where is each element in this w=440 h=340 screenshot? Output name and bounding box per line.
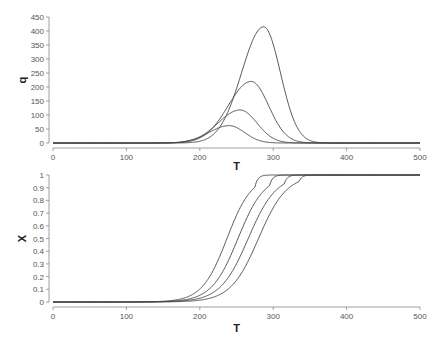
X-vs-T-plot: 00.10.20.30.40.50.60.70.80.9101002003004…	[16, 171, 427, 334]
series-line-4	[53, 175, 420, 302]
y-tick-label: 0.4	[33, 247, 45, 256]
y-tick-label: 450	[31, 13, 45, 22]
x-tick-label: 200	[193, 153, 207, 162]
y-tick-label: 50	[35, 125, 44, 134]
series-line-3	[53, 175, 420, 302]
x-axis-title: T	[233, 160, 240, 172]
y-axis-title: X	[16, 234, 28, 242]
x-tick-label: 400	[340, 312, 354, 321]
series-line-1	[53, 126, 420, 143]
y-tick-label: 150	[31, 97, 45, 106]
q-vs-T-plot: 0501001502002503003504004500100200300400…	[16, 13, 427, 172]
y-tick-label: 0.9	[33, 184, 45, 193]
y-tick-label: 350	[31, 41, 45, 50]
series-line-2	[53, 110, 420, 143]
x-tick-label: 100	[120, 312, 134, 321]
y-tick-label: 1	[40, 171, 45, 180]
y-tick-label: 0.3	[33, 260, 45, 269]
x-tick-label: 300	[267, 153, 281, 162]
chart-figure: 0501001502002503003504004500100200300400…	[0, 0, 440, 340]
x-tick-label: 0	[51, 153, 56, 162]
x-axis-title: T	[233, 322, 240, 334]
y-tick-label: 0.8	[33, 196, 45, 205]
series-line-1	[53, 175, 420, 302]
x-tick-label: 400	[340, 153, 354, 162]
y-tick-label: 0	[40, 139, 45, 148]
y-tick-label: 0.6	[33, 222, 45, 231]
x-tick-label: 0	[51, 312, 56, 321]
x-tick-label: 300	[267, 312, 281, 321]
y-axis-title: q	[16, 77, 28, 84]
x-tick-label: 200	[193, 312, 207, 321]
y-tick-label: 0.5	[33, 235, 45, 244]
series-line-4	[53, 27, 420, 143]
y-tick-label: 0.7	[33, 209, 45, 218]
x-tick-label: 500	[413, 312, 427, 321]
series-line-3	[53, 81, 420, 143]
y-tick-label: 100	[31, 111, 45, 120]
y-tick-label: 0.1	[33, 285, 45, 294]
y-tick-label: 400	[31, 27, 45, 36]
y-tick-label: 0.2	[33, 273, 45, 282]
series-line-2	[53, 175, 420, 302]
y-tick-label: 200	[31, 83, 45, 92]
x-tick-label: 500	[413, 153, 427, 162]
y-tick-label: 250	[31, 69, 45, 78]
y-tick-label: 0	[40, 298, 45, 307]
y-tick-label: 300	[31, 55, 45, 64]
x-tick-label: 100	[120, 153, 134, 162]
